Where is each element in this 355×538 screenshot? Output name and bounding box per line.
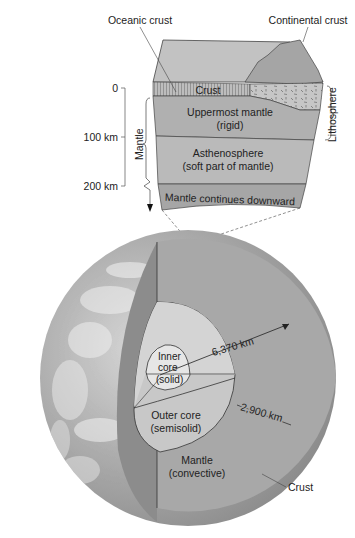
diagram-canvas: Crust Uppermost mantle (rigid) Asthenosp… (0, 0, 355, 538)
inner-core-sublabel: (solid) (156, 374, 183, 385)
continental-crust-label: Continental crust (269, 14, 348, 26)
mantle-bracket: Mantle (133, 98, 153, 212)
continental-crust-leader (303, 27, 308, 42)
crust-label: Crust (195, 84, 220, 96)
lithosphere-label: Lithosphere (326, 87, 338, 142)
globe-crust-label: Crust (288, 481, 313, 493)
depth-tick-200: 200 km (84, 180, 119, 192)
mantle-bracket-label: Mantle (133, 128, 145, 160)
asthenosphere-label: Asthenosphere (193, 147, 264, 159)
uppermost-mantle-label: Uppermost mantle (187, 106, 273, 118)
earth-interior-diagram: Crust Uppermost mantle (rigid) Asthenosp… (0, 0, 355, 538)
earth-globe: Inner core (solid) Outer core (semisolid… (40, 230, 336, 526)
mantle-label: Mantle (181, 454, 213, 466)
oceanic-crust-label: Oceanic crust (108, 14, 172, 26)
depth-scale: 0 100 km 200 km (84, 82, 125, 192)
lithosphere-block: Crust Uppermost mantle (rigid) Asthenosp… (108, 14, 348, 210)
outer-core-sublabel: (semisolid) (151, 422, 202, 434)
depth-tick-100: 100 km (84, 131, 119, 143)
inner-core-label-2: core (158, 362, 178, 373)
asthenosphere-sublabel: (soft part of mantle) (182, 160, 273, 172)
mantle-sublabel: (convective) (169, 467, 226, 479)
inner-core-label: Inner (158, 351, 181, 362)
down-arrow-icon (147, 204, 153, 212)
outer-core-label: Outer core (151, 409, 201, 421)
depth-tick-0: 0 (112, 82, 118, 94)
uppermost-mantle-sublabel: (rigid) (217, 119, 244, 131)
